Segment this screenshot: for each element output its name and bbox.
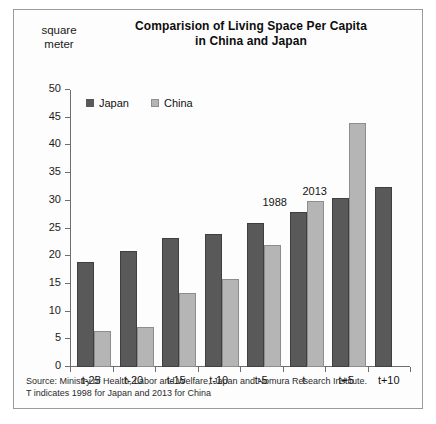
bar-japan: [247, 223, 264, 367]
bar-group: [368, 90, 411, 367]
x-axis-tick: [283, 367, 284, 372]
bar-group: [70, 90, 113, 367]
bar-china: [179, 293, 196, 367]
bar-china: [307, 201, 324, 367]
y-axis-tick-label: 0: [55, 359, 61, 371]
bar-group: [198, 90, 241, 367]
y-axis-tick-label: 35: [49, 165, 61, 177]
bar-china: [222, 279, 239, 367]
plot-area: 05101520253035404550 19882013 t-25t-20t-…: [70, 90, 410, 367]
y-axis-tick-label: 40: [49, 137, 61, 149]
bar-china: [264, 245, 281, 367]
bar-series-container: 19882013: [70, 90, 410, 367]
bar-annotation: 1988: [263, 196, 287, 208]
y-axis-tick-label: 50: [49, 82, 61, 94]
y-axis-tick-label: 30: [49, 193, 61, 205]
bar-japan: [290, 212, 307, 367]
footnote-line1: Source: Ministry of Health, Labor and We…: [26, 376, 414, 388]
bar-group: [325, 90, 368, 367]
y-axis-tick-label: 25: [49, 221, 61, 233]
chart-figure: square meter Comparision of Living Space…: [13, 9, 423, 409]
bar-china: [137, 327, 154, 367]
bar-group: [240, 90, 283, 367]
chart-title-line2: in China and Japan: [92, 34, 410, 49]
bar-china: [94, 331, 111, 367]
chart-footnote: Source: Ministry of Health, Labor and We…: [26, 376, 414, 399]
bar-japan: [120, 251, 137, 367]
bar-group: [155, 90, 198, 367]
y-axis-tick-label: 10: [49, 304, 61, 316]
y-axis-tick-label: 45: [49, 110, 61, 122]
chart-title: Comparision of Living Space Per Capita i…: [92, 19, 410, 49]
x-axis-tick: [325, 367, 326, 372]
x-axis-tick: [113, 367, 114, 372]
chart-title-line1: Comparision of Living Space Per Capita: [135, 19, 367, 33]
x-axis-tick: [70, 367, 71, 372]
x-axis-tick: [368, 367, 369, 372]
x-axis-tick: [240, 367, 241, 372]
y-axis-unit-label: square meter: [26, 23, 92, 51]
bar-group: 19882013: [283, 90, 326, 367]
bar-japan: [162, 238, 179, 367]
x-axis-tick: [155, 367, 156, 372]
y-axis-tick-label: 20: [49, 248, 61, 260]
x-axis-tick: [198, 367, 199, 372]
footnote-line2: T indicates 1998 for Japan and 2013 for …: [26, 388, 414, 400]
bar-japan: [332, 198, 349, 367]
y-axis-unit-line2: meter: [44, 38, 73, 50]
x-axis-tick: [410, 367, 411, 372]
y-axis-tick-label: 15: [49, 276, 61, 288]
bar-group: [113, 90, 156, 367]
bar-japan: [205, 234, 222, 367]
bar-japan: [77, 262, 94, 367]
bar-japan: [375, 187, 392, 367]
bar-annotation: 2013: [303, 185, 327, 197]
y-axis-tick-label: 5: [55, 331, 61, 343]
y-axis-unit-line1: square: [41, 24, 76, 36]
bar-china: [349, 123, 366, 367]
